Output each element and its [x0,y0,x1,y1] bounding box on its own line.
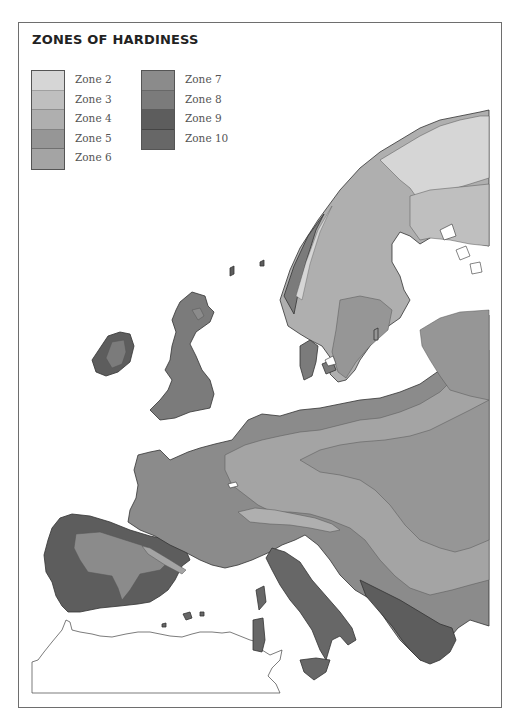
lake-finland-2 [470,262,482,274]
north-africa-outline [32,620,282,693]
corsica [256,586,266,610]
lake-finland-1 [456,246,470,260]
great-britain [150,292,214,420]
europe-hardiness-map [0,0,521,725]
faroe [260,260,264,266]
balearic-3 [162,623,166,627]
sicily [300,658,330,680]
sardinia [253,618,265,652]
south-sweden [332,296,392,378]
balearic-1 [183,612,192,620]
shetland [230,266,234,276]
gotland [374,328,378,340]
balearic-2 [200,612,204,616]
denmark [300,340,318,380]
